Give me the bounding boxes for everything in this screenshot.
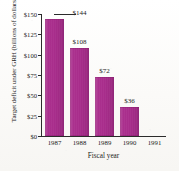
y-axis-tick-label: $50 bbox=[27, 92, 37, 99]
bar-chart-figure: Target deficit under GRH (billions of do… bbox=[0, 0, 179, 171]
y-axis-tick-label: $125 bbox=[24, 31, 37, 38]
bar bbox=[70, 48, 89, 136]
y-axis-tick-mark bbox=[38, 116, 41, 117]
x-axis-title: Fiscal year bbox=[41, 152, 166, 161]
x-axis-tick-label: 1990 bbox=[123, 139, 137, 147]
y-axis-tick-mark bbox=[38, 75, 41, 76]
bar bbox=[45, 19, 64, 136]
x-axis-line bbox=[41, 136, 166, 137]
y-axis-tick-label: $0 bbox=[30, 133, 37, 140]
x-axis-tick-label: 1987 bbox=[48, 139, 62, 147]
bar-value-label: $72 bbox=[99, 67, 110, 75]
x-axis-tick-label: 1988 bbox=[73, 139, 87, 147]
bar-value-label: $144 bbox=[73, 9, 87, 17]
bar bbox=[120, 107, 139, 136]
callout-leader-line bbox=[54, 14, 76, 15]
y-axis-tick-label: $150 bbox=[24, 11, 37, 18]
x-axis-tick-label: 1989 bbox=[98, 139, 112, 147]
y-axis-tick-mark bbox=[38, 14, 41, 15]
x-axis-tick-label: 1991 bbox=[148, 139, 162, 147]
plot-area: $0$25$50$75$100$125$150 $144$108$72$36 1… bbox=[41, 14, 166, 137]
y-axis-tick-label: $100 bbox=[24, 51, 37, 58]
y-axis-title: Target deficit under GRH (billions of do… bbox=[10, 0, 18, 130]
y-axis-tick-mark bbox=[38, 136, 41, 137]
y-axis-tick-mark bbox=[38, 95, 41, 96]
y-axis-tick-mark bbox=[38, 55, 41, 56]
bar bbox=[95, 77, 114, 136]
bar-value-label: $108 bbox=[73, 38, 87, 46]
y-axis-tick-label: $75 bbox=[27, 72, 37, 79]
y-axis-tick-mark bbox=[38, 34, 41, 35]
y-axis-line bbox=[41, 14, 42, 137]
y-axis-tick-label: $25 bbox=[27, 112, 37, 119]
bar-value-label: $36 bbox=[124, 97, 135, 105]
